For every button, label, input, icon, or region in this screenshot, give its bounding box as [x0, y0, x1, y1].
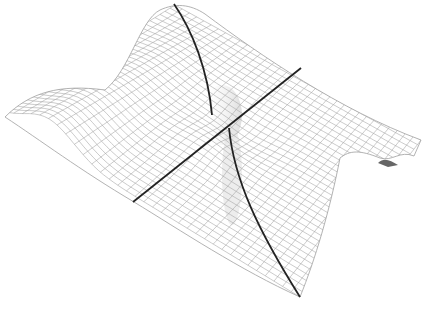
wireframe-surface [0, 0, 425, 311]
surface-figure [0, 0, 425, 311]
mesh-grid [0, 0, 425, 311]
surface-fold [378, 160, 398, 167]
